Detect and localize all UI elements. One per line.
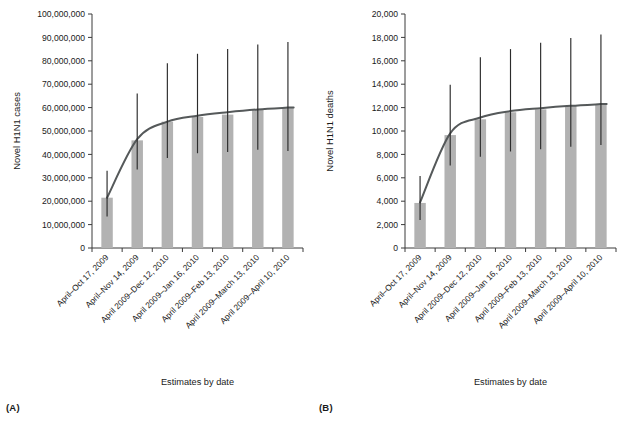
- y-tick-label: 16,000: [372, 56, 399, 66]
- y-axis-title: Novel H1N1 cases: [11, 92, 22, 170]
- x-tick-label: April–Nov 14, 2009: [396, 252, 454, 310]
- y-tick-label: 50,000,000: [42, 126, 85, 136]
- y-tick-label: 100,000,000: [37, 9, 85, 19]
- chart-svg-b: 02,0004,0006,0008,00010,00012,00014,0001…: [313, 0, 626, 423]
- y-tick-label: 80,000,000: [42, 56, 85, 66]
- x-axis-title: Estimates by date: [161, 377, 234, 387]
- x-axis-title: Estimates by date: [474, 377, 547, 387]
- panel-label-a: (A): [6, 402, 20, 413]
- y-tick-label: 0: [393, 243, 398, 253]
- x-tick-label: April–Oct 17, 2009: [367, 252, 423, 308]
- y-tick-label: 18,000: [372, 33, 399, 43]
- y-tick-label: 30,000,000: [42, 173, 85, 183]
- y-tick-label: 6,000: [376, 173, 398, 183]
- y-tick-label: 0: [80, 243, 85, 253]
- y-tick-label: 12,000: [372, 103, 399, 113]
- y-tick-label: 4,000: [376, 196, 398, 206]
- y-tick-label: 40,000,000: [42, 150, 85, 160]
- x-tick-label: April–Oct 17, 2009: [54, 252, 110, 308]
- y-tick-label: 10,000,000: [42, 220, 85, 230]
- y-tick-label: 10,000: [372, 126, 399, 136]
- chart-panel-a: 010,000,00020,000,00030,000,00040,000,00…: [0, 0, 313, 423]
- y-tick-label: 20,000,000: [42, 196, 85, 206]
- y-tick-label: 70,000,000: [42, 79, 85, 89]
- x-tick-label: April–Nov 14, 2009: [83, 252, 141, 310]
- y-tick-label: 20,000: [372, 9, 399, 19]
- y-tick-label: 60,000,000: [42, 103, 85, 113]
- chart-svg-a: 010,000,00020,000,00030,000,00040,000,00…: [0, 0, 313, 423]
- y-tick-label: 2,000: [376, 220, 398, 230]
- y-tick-label: 8,000: [376, 150, 398, 160]
- figure-container: 010,000,00020,000,00030,000,00040,000,00…: [0, 0, 627, 423]
- chart-panel-b: 02,0004,0006,0008,00010,00012,00014,0001…: [313, 0, 626, 423]
- y-tick-label: 90,000,000: [42, 33, 85, 43]
- y-axis-title: Novel H1N1 deaths: [324, 90, 335, 172]
- y-tick-label: 14,000: [372, 79, 399, 89]
- panel-label-b: (B): [319, 402, 333, 413]
